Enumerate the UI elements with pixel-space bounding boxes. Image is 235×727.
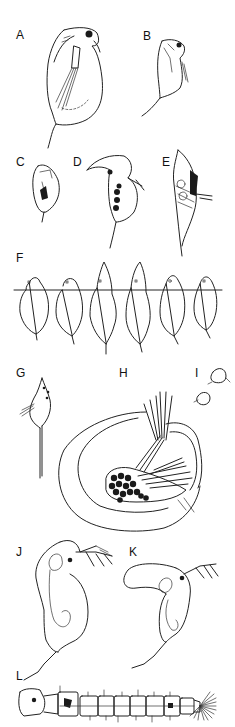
organism-l-illustration (19, 686, 216, 722)
organism-d-illustration (87, 156, 144, 248)
organism-c-illustration (33, 165, 59, 222)
series-f-form-3 (90, 262, 116, 354)
organism-f-series (14, 262, 222, 354)
organism-g-illustration (20, 378, 51, 478)
series-f-form-4 (126, 262, 150, 352)
egg-cluster (109, 473, 149, 503)
series-f-form-6 (194, 277, 217, 338)
organism-h-illustration (59, 392, 202, 531)
organism-b-illustration (142, 40, 188, 116)
organism-e-illustration (173, 150, 212, 256)
series-f-form-2 (56, 279, 83, 344)
organism-k-illustration (124, 564, 218, 668)
figure-drawing (0, 0, 235, 727)
series-f-form-1 (20, 278, 49, 340)
organism-j-illustration (24, 540, 112, 680)
organism-a-illustration (47, 28, 102, 148)
organism-i-illustration (194, 369, 230, 405)
series-f-form-5 (160, 276, 185, 344)
